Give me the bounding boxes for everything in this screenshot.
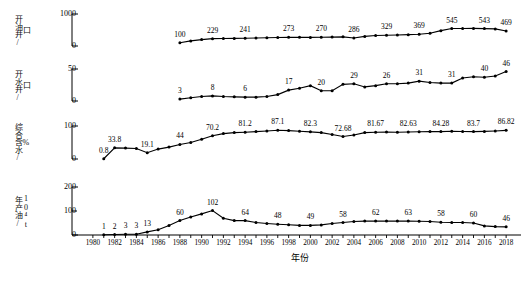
data-point: [483, 224, 486, 227]
data-point: [102, 157, 105, 160]
data-point: [222, 37, 225, 40]
data-point: [331, 133, 334, 136]
data-point: [124, 147, 127, 150]
data-point: [483, 130, 486, 133]
data-point: [396, 220, 399, 223]
data-point: [363, 131, 366, 134]
data-point: [342, 221, 345, 224]
data-point: [146, 151, 149, 154]
x-tick-label: 1996: [260, 239, 274, 247]
y-tick-label: 0: [46, 41, 76, 50]
data-point: [200, 95, 203, 98]
data-point: [211, 37, 214, 40]
data-point: [472, 75, 475, 78]
data-point: [342, 35, 345, 38]
data-point: [189, 141, 192, 144]
data-point: [363, 220, 366, 223]
data-point: [429, 32, 432, 35]
data-point: [407, 220, 410, 223]
data-point: [233, 37, 236, 40]
data-point: [396, 131, 399, 134]
y-axis-unit: %: [21, 138, 29, 147]
y-tick-label: 1000: [46, 9, 76, 18]
data-point: [450, 130, 453, 133]
data-value-label: 3: [135, 221, 139, 230]
data-value-label: 102: [207, 198, 218, 207]
data-point: [244, 37, 247, 40]
data-value-label: 58: [437, 209, 445, 218]
data-point: [157, 228, 160, 231]
data-point: [255, 37, 258, 40]
data-point: [429, 81, 432, 84]
x-tick-label: 1982: [107, 239, 121, 247]
data-value-label: 72.68: [335, 124, 352, 133]
data-value-label: 8: [211, 83, 215, 92]
data-value-label: 49: [307, 212, 315, 221]
data-value-label: 82.3: [304, 119, 317, 128]
data-point: [135, 233, 138, 236]
data-point: [113, 146, 116, 149]
data-point: [298, 87, 301, 90]
data-point: [309, 36, 312, 39]
data-value-label: 70.2: [206, 123, 219, 132]
data-point: [276, 36, 279, 39]
data-value-label: 100: [174, 30, 185, 39]
data-point: [407, 33, 410, 36]
y-tick-label: 0: [46, 154, 76, 163]
data-point: [265, 129, 268, 132]
data-point: [342, 83, 345, 86]
data-value-label: 82.63: [400, 119, 417, 128]
data-point: [309, 130, 312, 133]
data-point: [320, 223, 323, 226]
data-point: [505, 225, 508, 228]
data-value-label: 46: [502, 214, 510, 223]
data-point: [331, 222, 334, 225]
y-tick-label: 100: [46, 121, 76, 130]
data-value-label: 20: [318, 78, 326, 87]
data-point: [189, 39, 192, 42]
data-value-label: 2: [113, 222, 117, 231]
data-point: [494, 75, 497, 78]
data-value-label: 31: [415, 68, 423, 77]
data-point: [124, 233, 127, 236]
x-tick-label: 2008: [390, 239, 404, 247]
data-point: [309, 224, 312, 227]
data-point: [385, 131, 388, 134]
data-point: [320, 131, 323, 134]
x-axis-title: 年份: [291, 251, 309, 264]
y-axis-unit: 口: [21, 81, 29, 89]
data-point: [439, 221, 442, 224]
data-point: [331, 89, 334, 92]
data-value-label: 26: [383, 71, 391, 80]
data-point: [168, 224, 171, 227]
data-point: [244, 219, 247, 222]
y-tick-label: 200: [46, 182, 76, 191]
data-point: [287, 89, 290, 92]
data-value-label: 1: [102, 222, 106, 231]
data-point: [178, 41, 181, 44]
data-line: [180, 72, 506, 100]
x-tick-label: 2012: [434, 239, 448, 247]
data-point: [287, 129, 290, 132]
y-axis-title-water-wells: 开水井/口: [4, 65, 38, 105]
data-point: [320, 89, 323, 92]
x-tick-label: 2006: [368, 239, 382, 247]
data-point: [265, 95, 268, 98]
data-point: [222, 217, 225, 220]
x-tick-label: 1986: [151, 239, 165, 247]
data-point: [439, 82, 442, 85]
data-value-label: 13: [144, 219, 152, 228]
chart-root: 开油井/口01000100229241273270286329369545543…: [0, 0, 525, 281]
data-value-label: 44: [176, 131, 184, 140]
data-point: [418, 33, 421, 36]
data-point: [342, 135, 345, 138]
data-value-label: 64: [241, 208, 249, 217]
data-point: [135, 147, 138, 150]
data-value-label: 83.7: [467, 119, 480, 128]
data-point: [298, 130, 301, 133]
data-value-label: 60: [470, 210, 478, 219]
data-point: [255, 96, 258, 99]
data-value-label: 60: [176, 208, 184, 217]
data-point: [363, 35, 366, 38]
data-point: [494, 129, 497, 132]
